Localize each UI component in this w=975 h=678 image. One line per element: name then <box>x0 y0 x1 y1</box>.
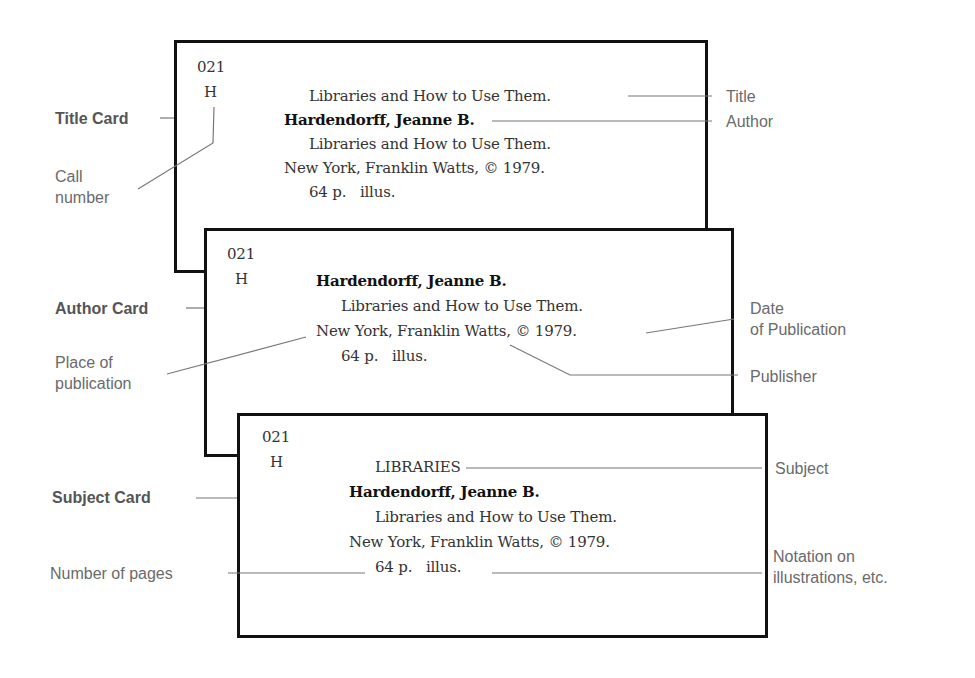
label-subject: Subject <box>775 458 828 479</box>
subject-card-subject-heading: LIBRARIES <box>375 458 461 476</box>
author-card-title: Libraries and How to Use Them. <box>341 297 583 315</box>
author-card-call-number-class: 021 <box>227 245 255 263</box>
label-place-of-publication: Place of publication <box>55 352 132 394</box>
subject-card-collation: 64 p. illus. <box>375 558 461 576</box>
label-publisher: Publisher <box>750 366 817 387</box>
author-card-collation: 64 p. illus. <box>341 347 427 365</box>
label-notation-line-2: illustrations, etc. <box>773 567 888 588</box>
author-card-call-number-cutter: H <box>235 270 248 288</box>
label-place-line-2: publication <box>55 373 132 394</box>
title-card-call-number-cutter: H <box>204 83 217 101</box>
label-author: Author <box>726 111 773 132</box>
label-call-number-line-2: number <box>55 187 109 208</box>
label-date-of-publication: Date of Publication <box>750 298 846 340</box>
label-call-number-line-1: Call <box>55 166 109 187</box>
title-card-title-heading: Libraries and How to Use Them. <box>309 87 551 105</box>
label-date-line-1: Date <box>750 298 846 319</box>
label-title: Title <box>726 86 756 107</box>
title-card-author: Hardendorff, Jeanne B. <box>284 111 475 129</box>
label-author-card: Author Card <box>55 298 148 319</box>
title-card-imprint: New York, Franklin Watts, © 1979. <box>284 159 545 177</box>
label-date-line-2: of Publication <box>750 319 846 340</box>
subject-card-imprint: New York, Franklin Watts, © 1979. <box>349 533 610 551</box>
subject-card-author: Hardendorff, Jeanne B. <box>349 483 540 501</box>
author-card-author: Hardendorff, Jeanne B. <box>316 272 507 290</box>
label-notation-line-1: Notation on <box>773 546 888 567</box>
title-card-title: Libraries and How to Use Them. <box>309 135 551 153</box>
label-notation: Notation on illustrations, etc. <box>773 546 888 588</box>
label-number-of-pages: Number of pages <box>50 563 173 584</box>
subject-card-call-number-class: 021 <box>262 428 290 446</box>
subject-card-call-number-cutter: H <box>270 453 283 471</box>
subject-card-title: Libraries and How to Use Them. <box>375 508 617 526</box>
label-title-card: Title Card <box>55 108 129 129</box>
label-call-number: Call number <box>55 166 109 208</box>
title-card-collation: 64 p. illus. <box>309 183 395 201</box>
label-place-line-1: Place of <box>55 352 132 373</box>
title-card-call-number-class: 021 <box>197 58 225 76</box>
label-subject-card: Subject Card <box>52 487 151 508</box>
author-card-imprint: New York, Franklin Watts, © 1979. <box>316 322 577 340</box>
